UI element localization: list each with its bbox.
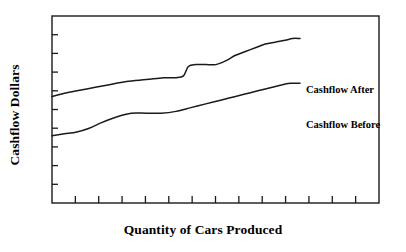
plot-frame (52, 16, 379, 203)
plot-border (52, 16, 379, 203)
series-label-cashflow-after: Cashflow After (306, 84, 374, 95)
series-label-cashflow-before: Cashflow Before (306, 119, 380, 130)
chart-figure: Cashflow Dollars Quantity of Cars Produc… (0, 0, 406, 252)
y-axis-title: Cashflow Dollars (0, 106, 75, 124)
y-axis-title-text: Cashflow Dollars (7, 65, 23, 166)
x-axis-title: Quantity of Cars Produced (0, 222, 406, 238)
